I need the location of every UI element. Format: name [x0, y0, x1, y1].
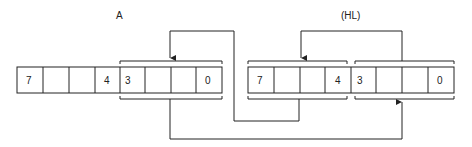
- arrow-hl-low-to-hl-high: [301, 31, 402, 61]
- register-a: [17, 67, 222, 93]
- register-hl-label: (HL): [341, 10, 360, 21]
- arrow-a-low-to-hl-low: [170, 99, 402, 139]
- register-a-label: A: [116, 10, 123, 21]
- register-a-bit7: 7: [26, 75, 32, 86]
- register-hl-bit4: 4: [335, 75, 341, 86]
- register-hl-bit3: 3: [357, 75, 363, 86]
- arrow-hl-high-to-a-low: [170, 31, 299, 121]
- register-a-bit4: 4: [104, 75, 110, 86]
- register-a-bit3: 3: [125, 75, 131, 86]
- register-a-bit0: 0: [205, 75, 211, 86]
- register-hl: [248, 67, 454, 93]
- register-hl-bit0: 0: [437, 75, 443, 86]
- rld-diagram: A (HL) 7 4 3 0 7 4 3 0: [0, 0, 472, 147]
- register-hl-bit7: 7: [257, 75, 263, 86]
